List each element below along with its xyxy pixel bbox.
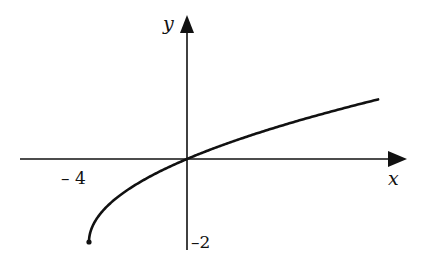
function-curve — [89, 99, 378, 242]
x-tick-label: – 4 — [61, 168, 86, 188]
x-axis-label: x — [388, 167, 399, 189]
graph: y x – 4 –2 — [0, 0, 425, 259]
y-tick-label: –2 — [191, 232, 210, 252]
y-axis-arrow-icon — [180, 15, 194, 33]
x-axis-arrow-icon — [388, 151, 407, 167]
curve-endpoint — [86, 239, 91, 244]
y-axis-label: y — [162, 12, 174, 34]
